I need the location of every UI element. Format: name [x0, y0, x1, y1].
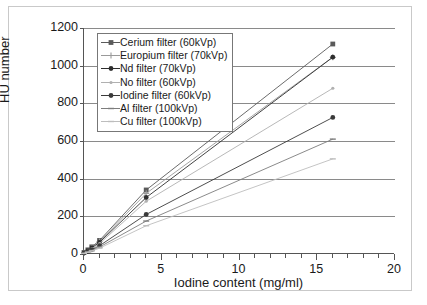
y-tick-label: 0: [18, 246, 78, 260]
x-tick-mark-minor: [378, 254, 379, 258]
legend-label: Nd filter (70kVp): [120, 63, 196, 74]
legend-marker-icon: [101, 116, 120, 127]
legend-item[interactable]: Europium filter (70kVp): [101, 49, 227, 62]
legend-marker-icon: [101, 90, 120, 101]
x-axis-label: Iodine content (mg/ml): [83, 275, 394, 290]
x-tick-mark-minor: [254, 254, 255, 258]
y-tick-label: 200: [18, 208, 78, 222]
legend-marker-icon: [101, 103, 120, 114]
series-6: [81, 159, 336, 254]
series-4: [82, 115, 336, 255]
legend-label: Europium filter (70kVp): [120, 50, 227, 61]
x-tick-label: 0: [80, 262, 87, 276]
x-tick-label: 10: [232, 262, 246, 276]
series-line: [84, 159, 333, 254]
x-tick-mark-minor: [176, 254, 177, 258]
legend-marker-icon: [101, 63, 120, 74]
x-tick-label: 5: [157, 262, 164, 276]
legend-label: Iodine filter (60kVp): [120, 90, 211, 101]
x-tick-mark-minor: [332, 254, 333, 258]
y-tick-label: 600: [18, 133, 78, 147]
chart-figure: HU number 020040060080010001200 05101520…: [8, 6, 412, 291]
x-tick-mark-minor: [192, 254, 193, 258]
y-tick-label: 400: [18, 171, 78, 185]
x-tick-mark-minor: [207, 254, 208, 258]
data-point: [145, 200, 148, 203]
y-tick-label: 1200: [18, 20, 78, 34]
x-tick-mark-major: [316, 254, 317, 260]
legend-label: No filter (60kVp): [120, 77, 196, 88]
legend-item[interactable]: Nd filter (70kVp): [101, 62, 227, 75]
legend-item[interactable]: Iodine filter (60kVp): [101, 89, 227, 102]
legend-item[interactable]: Cu filter (100kVp): [101, 115, 227, 128]
x-tick-mark-major: [161, 254, 162, 260]
x-tick-mark-major: [83, 254, 84, 260]
x-tick-mark-minor: [285, 254, 286, 258]
data-point: [330, 115, 335, 120]
x-tick-mark-minor: [223, 254, 224, 258]
legend-marker-icon: [101, 77, 120, 88]
y-tick-label: 800: [18, 95, 78, 109]
series-5: [81, 139, 336, 253]
legend-item[interactable]: No filter (60kVp): [101, 76, 227, 89]
x-tick-label: 15: [309, 262, 323, 276]
data-point: [144, 212, 149, 217]
data-point: [330, 55, 335, 60]
x-tick-mark-minor: [347, 254, 348, 258]
data-point: [330, 42, 335, 47]
legend-label: Al filter (100kVp): [120, 103, 198, 114]
x-tick-mark-minor: [270, 254, 271, 258]
legend-item[interactable]: Cerium filter (60kVp): [101, 36, 227, 49]
x-tick-mark-minor: [99, 254, 100, 258]
x-tick-mark-minor: [301, 254, 302, 258]
legend-item[interactable]: Al filter (100kVp): [101, 102, 227, 115]
chart-legend: Cerium filter (60kVp)Europium filter (70…: [97, 33, 233, 132]
data-point: [331, 87, 334, 90]
data-point: [144, 195, 149, 200]
y-axis-label: HU number: [0, 37, 12, 103]
x-tick-mark-minor: [363, 254, 364, 258]
x-tick-mark-minor: [114, 254, 115, 258]
series-line: [84, 139, 333, 253]
legend-label: Cu filter (100kVp): [120, 116, 202, 127]
legend-marker-icon: [101, 50, 120, 61]
x-tick-mark-minor: [145, 254, 146, 258]
x-tick-label: 20: [387, 262, 401, 276]
legend-label: Cerium filter (60kVp): [120, 37, 216, 48]
x-tick-mark-minor: [130, 254, 131, 258]
legend-marker-icon: [101, 37, 120, 48]
series-line: [84, 117, 333, 253]
x-tick-mark-major: [239, 254, 240, 260]
x-tick-mark-major: [394, 254, 395, 260]
y-tick-label: 1000: [18, 58, 78, 72]
